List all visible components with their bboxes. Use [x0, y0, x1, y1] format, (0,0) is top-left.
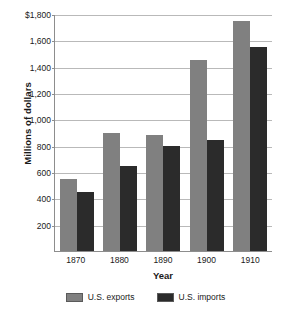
y-axis-tick-label: 800 — [37, 142, 51, 152]
bar-1910-exports[interactable] — [233, 21, 250, 251]
y-axis-tick-label: 1,400 — [30, 63, 51, 73]
legend-item[interactable]: U.S. exports — [66, 292, 135, 302]
x-axis-tick-labels: 18701880189019001910 — [54, 255, 272, 269]
y-axis-tick-label: 200 — [37, 221, 51, 231]
legend-label: U.S. imports — [179, 292, 226, 302]
y-axis-tick-label: 1,200 — [30, 89, 51, 99]
legend-item[interactable]: U.S. imports — [157, 292, 226, 302]
y-axis-tick-label: 1,000 — [30, 115, 51, 125]
y-axis-tick-label: 600 — [37, 168, 51, 178]
bars-layer — [55, 15, 272, 251]
chart-legend: U.S. exportsU.S. imports — [0, 292, 291, 302]
bar-1910-imports[interactable] — [250, 47, 267, 251]
bar-1880-exports[interactable] — [103, 133, 120, 252]
x-axis-tick-label: 1900 — [187, 255, 227, 269]
bar-1900-exports[interactable] — [190, 60, 207, 251]
bar-chart-figure: Millions of dollars $1,8001,6001,4001,20… — [0, 0, 291, 315]
bar-1890-exports[interactable] — [146, 135, 163, 251]
bar-group — [190, 15, 224, 251]
bar-group — [233, 15, 267, 251]
legend-label: U.S. exports — [88, 292, 135, 302]
bar-1900-imports[interactable] — [207, 140, 224, 251]
y-axis-tick-label: 1,600 — [30, 36, 51, 46]
x-axis-tick-label: 1870 — [56, 255, 96, 269]
bar-1870-exports[interactable] — [60, 179, 77, 251]
bar-group — [103, 15, 137, 251]
x-axis-title: Year — [54, 270, 272, 281]
bar-group — [146, 15, 180, 251]
y-axis-tick-label: 400 — [37, 194, 51, 204]
bar-1880-imports[interactable] — [120, 166, 137, 251]
bar-1870-imports[interactable] — [77, 192, 94, 251]
x-axis-tick-label: 1890 — [143, 255, 183, 269]
y-axis-tick-label: $1,800 — [25, 10, 51, 20]
x-axis-tick-label: 1880 — [99, 255, 139, 269]
legend-swatch — [66, 293, 83, 302]
plot-area: $1,8001,6001,4001,2001,000800600400200 — [54, 15, 272, 252]
bar-1890-imports[interactable] — [163, 146, 180, 251]
x-axis-tick-label: 1910 — [230, 255, 270, 269]
legend-swatch — [157, 293, 174, 302]
bar-group — [60, 15, 94, 251]
